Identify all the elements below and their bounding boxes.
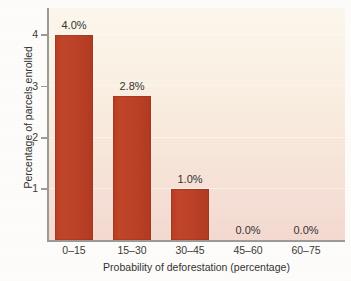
bar-value-label: 0.0% [223,225,273,236]
chart-figure: 1 2 3 4 4.0% 2.8% 1.0% 0.0% 0.0% 0–15 15… [0,0,351,281]
bar-value-label: 1.0% [165,174,215,185]
bar[interactable] [113,96,151,240]
x-axis-tick-label: 45–60 [221,245,275,256]
bar[interactable] [171,189,209,240]
bar[interactable] [55,35,93,240]
x-axis-tick-label: 15–30 [105,245,159,256]
x-axis-line [47,240,345,242]
bar-value-label: 4.0% [49,20,99,31]
x-axis-title: Probability of deforestation (percentage… [48,262,345,274]
y-axis-tick [41,188,47,190]
y-axis-line [47,8,49,241]
y-axis-title: Percentage of parcels enrolled [23,17,34,217]
bar-value-label: 0.0% [281,225,331,236]
x-axis-tick-label: 30–45 [163,245,217,256]
x-axis-tick-label: 60–75 [279,245,333,256]
y-axis-tick [41,34,47,36]
x-axis-tick-label: 0–15 [47,245,101,256]
y-axis-tick [41,137,47,139]
bar-value-label: 2.8% [107,81,157,92]
y-axis-tick [41,86,47,88]
